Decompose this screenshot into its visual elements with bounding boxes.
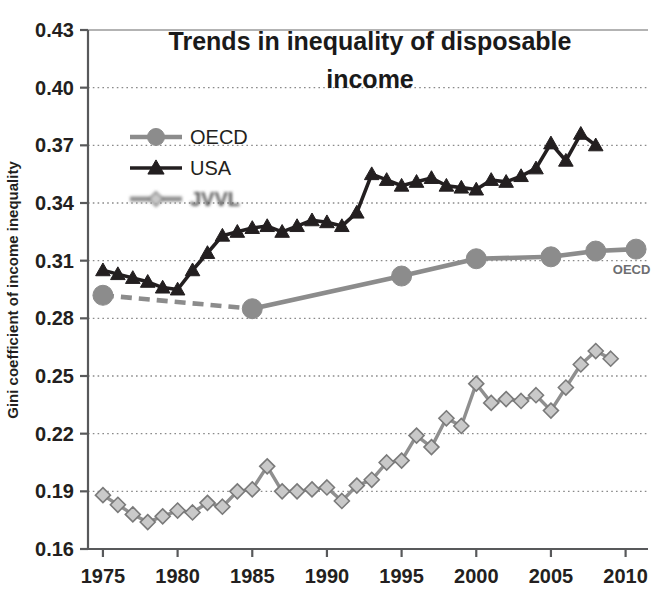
data-point-circle: [586, 241, 606, 261]
x-axis-tick-label: 1980: [155, 565, 200, 587]
y-axis-tick-label: 0.19: [35, 480, 74, 502]
x-axis-tick-label: 2000: [454, 565, 499, 587]
legend-label: JVVL: [190, 188, 240, 210]
chart-container: 0.430.400.370.340.310.280.250.220.190.16…: [0, 0, 662, 605]
legend-label: USA: [190, 157, 232, 179]
data-point-circle: [242, 299, 262, 319]
y-axis-tick-label: 0.28: [35, 307, 74, 329]
data-point-circle: [93, 285, 113, 305]
chart-annotations: OECD: [613, 262, 651, 277]
y-axis-tick-label: 0.40: [35, 77, 74, 99]
legend-label: OECD: [190, 126, 248, 148]
y-axis-tick-label: 0.16: [35, 538, 74, 560]
y-axis-title: Gini coefficient of income inequality: [4, 161, 21, 419]
chart-title-line2: income: [326, 65, 414, 93]
chart-title-line1: Trends in inequality of disposable: [169, 27, 572, 55]
x-axis-tick-label: 2010: [603, 565, 648, 587]
data-point-circle: [148, 129, 165, 146]
gini-trends-line-chart: 0.430.400.370.340.310.280.250.220.190.16…: [0, 0, 662, 605]
annotation-label: OECD: [613, 262, 651, 277]
x-axis-tick-label: 1985: [230, 565, 275, 587]
x-axis-tick-label: 1995: [379, 565, 424, 587]
y-axis-tick-label: 0.34: [35, 192, 75, 214]
data-point-circle: [392, 266, 412, 286]
data-point-circle: [626, 239, 646, 259]
x-axis-tick-label: 1990: [305, 565, 350, 587]
y-axis-tick-label: 0.37: [35, 134, 74, 156]
y-axis-tick-label: 0.25: [35, 365, 74, 387]
y-axis-tick-label: 0.22: [35, 423, 74, 445]
data-point-circle: [466, 249, 486, 269]
y-axis-tick-label: 0.43: [35, 19, 74, 41]
data-point-circle: [541, 247, 561, 267]
x-axis-tick-label: 1975: [81, 565, 126, 587]
y-axis-tick-label: 0.31: [35, 250, 74, 272]
x-axis-tick-label: 2005: [529, 565, 574, 587]
